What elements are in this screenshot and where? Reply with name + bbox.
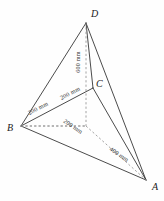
vertex-label-A: A: [151, 181, 159, 192]
vertex-label-D: D: [90, 8, 99, 19]
dimension-bc-lower: 200 mm: [27, 100, 49, 116]
vertex-label-B: B: [7, 122, 13, 133]
dimension-labels-group: 200 mm 200 mm 600 mm 200 mm 400 mm: [27, 51, 131, 163]
vertex-labels-group: A B C D: [7, 8, 159, 192]
edge-B-A: [21, 126, 146, 180]
dimension-bc-upper: 200 mm: [59, 85, 81, 101]
figure-container: 200 mm 200 mm 600 mm 200 mm 400 mm A B C…: [0, 0, 164, 201]
edge-C-A: [93, 88, 146, 180]
dimension-height-do: 600 mm: [74, 51, 81, 73]
tetrahedron-diagram: 200 mm 200 mm 600 mm 200 mm 400 mm A B C…: [0, 0, 164, 201]
vertex-label-C: C: [96, 78, 103, 89]
edge-D-A: [86, 23, 146, 180]
